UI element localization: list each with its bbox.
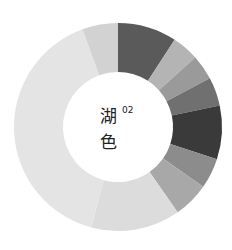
center-label-line1: 湖 [100,103,117,129]
donut-segment-9 [14,29,104,227]
center-label-line2: 色 [100,129,117,155]
center-label-superscript: 02 [122,97,133,123]
center-label: 湖 02 色 [100,103,117,155]
